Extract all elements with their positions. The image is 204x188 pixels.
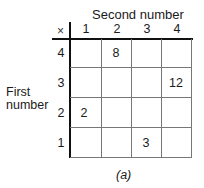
times-symbol: × xyxy=(57,24,64,38)
grid-cell: 8 xyxy=(101,39,131,68)
grid-line xyxy=(191,39,192,157)
row-axis-title: First number xyxy=(6,86,48,112)
grid-cell: 2 xyxy=(69,99,99,128)
grid-cell xyxy=(101,129,131,158)
grid-cell xyxy=(161,39,191,68)
grid-cell: 12 xyxy=(161,69,191,98)
grid-cell xyxy=(161,129,191,158)
grid-cell xyxy=(71,39,101,68)
grid-cell xyxy=(131,39,161,68)
column-header-4: 4 xyxy=(162,22,192,36)
grid-cell xyxy=(101,99,131,128)
grid-cell xyxy=(131,99,161,128)
row-header-3: 3 xyxy=(56,76,66,90)
row-header-1: 1 xyxy=(56,136,66,150)
grid-cell xyxy=(101,69,131,98)
column-header-3: 3 xyxy=(132,22,162,36)
row-header-4: 4 xyxy=(56,46,66,60)
column-header-2: 2 xyxy=(102,22,132,36)
row-header-2: 2 xyxy=(56,106,66,120)
column-axis-title: Second number xyxy=(92,7,184,22)
grid-cell xyxy=(131,69,161,98)
column-header-1: 1 xyxy=(71,22,101,36)
grid-cell xyxy=(161,99,191,128)
row-axis-title-line2: number xyxy=(6,99,48,112)
grid-cell xyxy=(71,69,101,98)
grid-cell: 3 xyxy=(131,129,161,158)
grid-cell xyxy=(71,129,101,158)
figure-caption: (a) xyxy=(116,168,131,182)
